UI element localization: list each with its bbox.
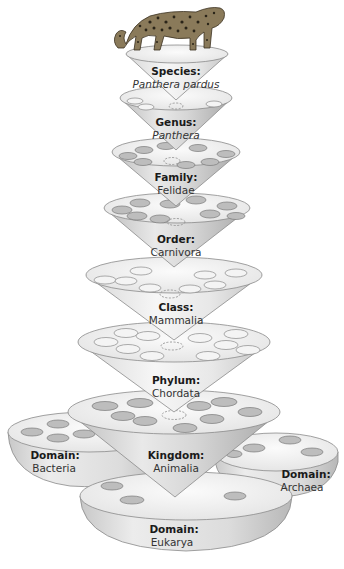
species-rank: Species: (151, 65, 201, 77)
order-rank: Order: (157, 233, 195, 245)
label-kingdom: Kingdom: Animalia (148, 449, 205, 474)
eukarya-name: Eukarya (151, 536, 194, 548)
label-family: Family: Felidae (155, 171, 198, 196)
order-name: Carnivora (151, 246, 202, 258)
archaea-name: Archaea (280, 481, 323, 493)
genus-rank: Genus: (155, 116, 196, 128)
bacteria-name: Bacteria (32, 462, 76, 474)
kingdom-rank: Kingdom: (148, 449, 205, 461)
archaea-rank: Domain: (281, 468, 330, 480)
family-name: Felidae (157, 184, 194, 196)
label-domain-eukarya: Domain: Eukarya (149, 523, 198, 548)
label-domain-bacteria: Domain: Bacteria (30, 449, 79, 474)
leopard-illustration (114, 8, 224, 51)
label-domain-archaea: Domain: Archaea (280, 468, 330, 493)
eukarya-rank: Domain: (149, 523, 198, 535)
phylum-name: Chordata (152, 387, 200, 399)
family-rank: Family: (155, 171, 198, 183)
bacteria-rank: Domain: (30, 449, 79, 461)
label-genus: Genus: Panthera (152, 116, 199, 141)
taxonomy-nested-cones-diagram: Species: Panthera pardus Genus: Panthera… (0, 0, 344, 569)
class-name: Mammalia (149, 314, 204, 326)
label-order: Order: Carnivora (151, 233, 202, 258)
genus-name: Panthera (152, 129, 199, 141)
kingdom-name: Animalia (153, 462, 199, 474)
class-rank: Class: (158, 301, 193, 313)
label-phylum: Phylum: Chordata (152, 374, 200, 399)
species-name: Panthera pardus (133, 78, 220, 90)
phylum-rank: Phylum: (152, 374, 200, 386)
